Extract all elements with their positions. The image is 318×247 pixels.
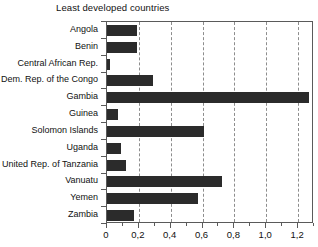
y-axis-label: Angola [70, 24, 98, 34]
chart-title: Least developed countries [56, 2, 169, 13]
bar [107, 59, 110, 70]
y-axis-label: Benin [75, 41, 98, 51]
bar-chart: Least developed countries AngolaBeninCen… [0, 0, 318, 247]
x-axis-minor-tick [249, 223, 250, 226]
x-axis-minor-tick [122, 223, 123, 226]
gridline [298, 22, 299, 222]
x-axis-tick-label: 1,0 [259, 229, 272, 240]
bar [107, 176, 222, 187]
x-axis-tick-label: 0,4 [163, 229, 176, 240]
y-axis-label: Central African Rep. [17, 58, 98, 68]
x-axis-minor-tick [313, 223, 314, 226]
x-axis-tick-label: 1,2 [290, 229, 303, 240]
gridline [234, 22, 235, 222]
y-axis-tick [101, 206, 106, 207]
y-axis-tick [101, 38, 106, 39]
y-axis-label: Vanuatu [65, 175, 98, 185]
plot-area [106, 21, 313, 223]
y-axis-category-labels: AngolaBeninCentral African Rep.Dem. Rep.… [0, 21, 102, 223]
x-axis-tick [170, 223, 171, 228]
y-axis-label: Uganda [66, 142, 98, 152]
y-axis-tick [101, 139, 106, 140]
bar [107, 25, 137, 36]
y-axis-label: Solomon Islands [31, 125, 98, 135]
y-axis-label: Dem. Rep. of the Congo [1, 74, 98, 84]
y-axis-label: Zambia [68, 209, 98, 219]
x-axis-tick [106, 223, 107, 228]
y-axis-label: United Rep. of Tanzania [2, 159, 98, 169]
bar [107, 193, 198, 204]
bar [107, 42, 137, 53]
x-axis-tick-label: 0 [103, 229, 108, 240]
x-axis-minor-tick [154, 223, 155, 226]
x-axis-minor-tick [281, 223, 282, 226]
x-axis-tick [138, 223, 139, 228]
gridline [171, 22, 172, 222]
y-axis-label: Guinea [69, 108, 98, 118]
y-axis-tick [101, 105, 106, 106]
x-axis-minor-tick [186, 223, 187, 226]
gridline [266, 22, 267, 222]
gridline [203, 22, 204, 222]
x-axis-tick [233, 223, 234, 228]
x-axis-tick [265, 223, 266, 228]
bar [107, 109, 118, 120]
x-axis-tick-label: 0,6 [195, 229, 208, 240]
y-axis-label: Yemen [70, 192, 98, 202]
bar [107, 126, 204, 137]
y-axis-tick [101, 189, 106, 190]
y-axis-tick [101, 156, 106, 157]
y-axis-tick [101, 72, 106, 73]
y-axis-tick [101, 21, 106, 22]
gridline [139, 22, 140, 222]
y-axis-label: Gambia [66, 91, 98, 101]
x-axis-tick-label: 0,2 [131, 229, 144, 240]
x-axis-minor-tick [217, 223, 218, 226]
bar [107, 92, 309, 103]
x-axis-tick [202, 223, 203, 228]
bar [107, 210, 134, 221]
x-axis-tick-label: 0,8 [227, 229, 240, 240]
bar [107, 160, 126, 171]
bar [107, 143, 121, 154]
y-axis-tick [101, 88, 106, 89]
y-axis-tick [101, 173, 106, 174]
y-axis-tick [101, 122, 106, 123]
bar [107, 75, 153, 86]
x-axis-tick [297, 223, 298, 228]
y-axis-tick [101, 55, 106, 56]
